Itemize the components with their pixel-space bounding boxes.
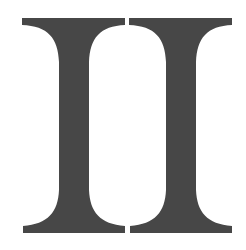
roman-numeral-ii <box>0 0 246 250</box>
background <box>0 0 246 250</box>
